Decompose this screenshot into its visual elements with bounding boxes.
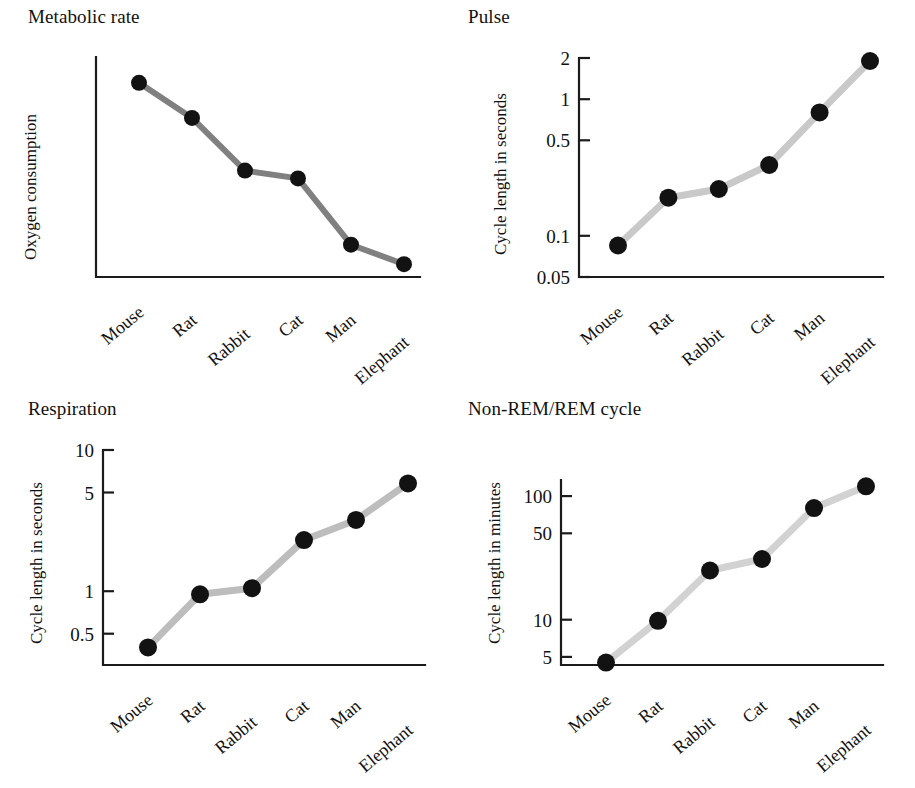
y-axis-title: Cycle length in seconds <box>491 93 510 255</box>
panel-non-rem-rem-cycle: Non-REM/REM cycle Cycle length in minute… <box>458 392 913 786</box>
data-point-man <box>805 499 823 517</box>
y-tick-label: 50 <box>533 523 552 544</box>
data-point-rat <box>649 612 667 630</box>
x-category-label-mouse: Mouse <box>97 302 147 349</box>
x-category-label-cat: Cat <box>275 310 307 341</box>
y-axis-title-group: Oxygen consumption <box>21 114 40 260</box>
chart-metabolic-rate: Oxygen consumption MouseRatRabbitCatManE… <box>0 0 455 394</box>
data-points <box>597 477 875 671</box>
data-point-man <box>811 103 829 121</box>
x-category-label-man: Man <box>784 696 822 733</box>
y-tick-label: 0.5 <box>70 624 94 645</box>
x-category-label-elephant: Elephant <box>817 332 879 388</box>
chart-respiration: Cycle length in seconds 0.51510 MouseRat… <box>0 392 455 786</box>
x-category-label-rabbit: Rabbit <box>211 712 261 758</box>
y-tick-label: 1 <box>85 581 95 602</box>
y-axis-title: Cycle length in minutes <box>485 482 504 644</box>
data-point-man <box>343 237 359 253</box>
x-category-label-cat: Cat <box>739 696 771 727</box>
data-point-elephant <box>396 256 412 272</box>
y-tick-label: 5 <box>85 483 95 504</box>
x-category-label-man: Man <box>790 308 828 345</box>
y-axis-title-group: Cycle length in minutes <box>485 482 504 644</box>
y-tick-label: 5 <box>543 647 553 668</box>
data-point-elephant <box>399 474 417 492</box>
data-point-elephant <box>857 477 875 495</box>
x-axis-category-labels: MouseRatRabbitCatManElephant <box>564 690 874 776</box>
data-point-rabbit <box>237 163 253 179</box>
y-tick-label: 0.05 <box>537 267 570 288</box>
data-point-cat <box>295 531 313 549</box>
y-tick-label: 0.1 <box>546 226 570 247</box>
data-point-mouse <box>139 638 157 656</box>
x-category-label-rabbit: Rabbit <box>204 324 254 370</box>
x-axis-category-labels: MouseRatRabbitCatManElephant <box>106 690 416 776</box>
y-tick-label: 1 <box>561 89 571 110</box>
x-category-label-elephant: Elephant <box>355 720 417 776</box>
data-point-mouse <box>597 654 615 672</box>
data-point-rabbit <box>710 180 728 198</box>
series-respiration <box>139 474 417 656</box>
data-point-rat <box>659 189 677 207</box>
y-tick-label: 2 <box>561 48 571 69</box>
x-category-label-rat: Rat <box>635 696 667 727</box>
panel-pulse: Pulse Cycle length in seconds 0.050.10.5… <box>458 0 913 394</box>
data-point-rabbit <box>243 579 261 597</box>
data-point-cat <box>760 156 778 174</box>
y-tick-label: 10 <box>75 440 94 461</box>
data-point-rat <box>191 585 209 603</box>
axes <box>561 480 883 665</box>
x-category-label-mouse: Mouse <box>106 690 156 737</box>
data-point-cat <box>753 550 771 568</box>
x-category-label-rat: Rat <box>645 308 677 339</box>
data-line <box>148 483 408 647</box>
x-category-label-man: Man <box>326 696 364 733</box>
data-point-rat <box>184 110 200 126</box>
series-pulse <box>609 52 879 255</box>
data-points <box>609 52 879 255</box>
data-point-mouse <box>131 75 147 91</box>
x-category-label-elephant: Elephant <box>813 720 875 776</box>
x-axis-category-labels: MouseRatRabbitCatManElephant <box>576 302 878 388</box>
y-axis-title: Cycle length in seconds <box>27 482 46 644</box>
axes <box>103 450 425 665</box>
y-axis-ticks: 0.050.10.512 <box>537 48 590 288</box>
x-category-label-man: Man <box>321 310 359 347</box>
four-panel-figure: Metabolic rate Oxygen consumption MouseR… <box>0 0 915 788</box>
y-axis-title-group: Cycle length in seconds <box>491 93 510 255</box>
panel-metabolic-rate: Metabolic rate Oxygen consumption MouseR… <box>0 0 455 394</box>
data-point-elephant <box>861 52 879 70</box>
chart-non-rem-rem-cycle: Cycle length in minutes 51050100 MouseRa… <box>458 392 913 786</box>
data-point-cat <box>290 170 306 186</box>
y-axis-title: Oxygen consumption <box>21 114 40 260</box>
x-axis-category-labels: MouseRatRabbitCatManElephant <box>97 302 412 388</box>
panel-respiration: Respiration Cycle length in seconds 0.51… <box>0 392 455 786</box>
y-axis-ticks: 0.51510 <box>70 440 114 645</box>
series-metabolic-rate <box>131 75 412 272</box>
series-non-rem-rem-cycle <box>597 477 875 671</box>
x-category-label-mouse: Mouse <box>564 690 614 737</box>
x-category-label-rat: Rat <box>177 696 209 727</box>
x-category-label-cat: Cat <box>746 308 778 339</box>
data-point-mouse <box>609 237 627 255</box>
x-category-label-cat: Cat <box>281 696 313 727</box>
y-tick-label: 100 <box>524 486 553 507</box>
y-tick-label: 0.5 <box>546 130 570 151</box>
x-category-label-rabbit: Rabbit <box>669 712 719 758</box>
x-category-label-rat: Rat <box>169 310 201 341</box>
data-point-man <box>347 511 365 529</box>
x-category-label-elephant: Elephant <box>351 332 413 388</box>
x-category-label-mouse: Mouse <box>576 302 626 349</box>
data-line <box>139 83 404 264</box>
y-tick-label: 10 <box>533 610 552 631</box>
x-category-label-rabbit: Rabbit <box>678 324 728 370</box>
y-axis-title-group: Cycle length in seconds <box>27 482 46 644</box>
chart-pulse: Cycle length in seconds 0.050.10.512 Mou… <box>458 0 913 394</box>
data-line <box>606 486 866 662</box>
y-axis-ticks: 51050100 <box>524 486 573 668</box>
data-point-rabbit <box>701 562 719 580</box>
data-line <box>618 61 870 246</box>
